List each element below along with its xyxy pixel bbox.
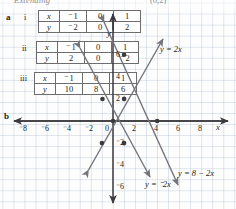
point-neg1-2 [100, 97, 105, 102]
y-axis-label: y [107, 28, 111, 38]
x-axis-label: x [216, 122, 220, 132]
x-tick-neg4: ⁻4 [63, 124, 71, 133]
x-tick-4: 4 [154, 124, 158, 133]
point-1-2 [122, 97, 127, 102]
y-tick-neg6: ⁻6 [116, 182, 124, 191]
y-tick-4: 4 [116, 72, 120, 81]
x-tick-2: 2 [132, 124, 136, 133]
line-y-equals-negative-2x [80, 48, 150, 177]
x-tick-6: 6 [176, 124, 180, 133]
x-tick-neg2: ⁻2 [85, 124, 93, 133]
equation-label-y-2x: y = 2x [160, 44, 182, 54]
line-y-equals-2x [89, 39, 164, 170]
x-tick-neg6: ⁻6 [41, 124, 49, 133]
point-1-6 [122, 52, 127, 57]
point-0-0 [111, 119, 116, 124]
equation-label-y-neg2x: y = ⁻2x [145, 179, 171, 189]
x-tick-neg8: ⁻8 [19, 124, 27, 133]
graph-figure: Extending (0,2) a b i ii iii x ⁻1 0 1 y … [0, 0, 236, 209]
x-tick-0: 0 [105, 124, 109, 133]
point-4-0 [155, 119, 160, 124]
x-tick-8: 8 [198, 124, 202, 133]
y-tick-2: 2 [116, 94, 120, 103]
equation-label-y-8-minus-2x: y = 8 − 2x [178, 168, 214, 178]
point-neg1-neg2 [100, 141, 105, 146]
y-tick-6: 6 [116, 50, 120, 59]
y-tick-neg2: ⁻2 [116, 138, 124, 147]
y-tick-neg4: ⁻4 [116, 160, 124, 169]
